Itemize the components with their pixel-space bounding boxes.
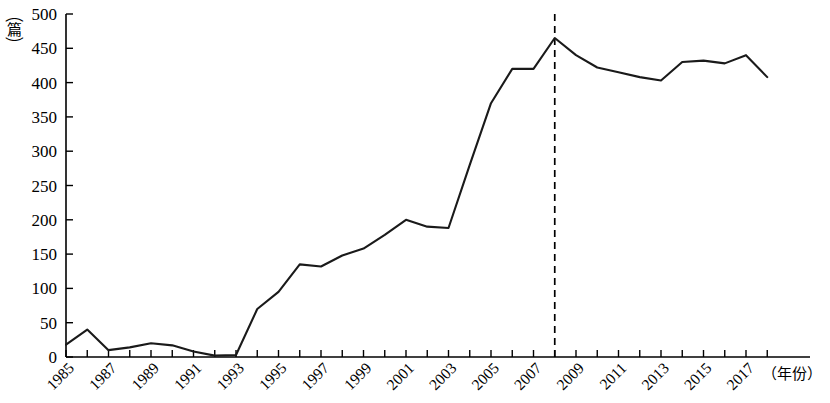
y-tick-label: 350 <box>32 108 58 127</box>
y-tick-label: 300 <box>32 142 58 161</box>
x-tick-label: 2015 <box>681 359 715 393</box>
x-tick-label: 2005 <box>468 359 502 393</box>
x-tick-label: 2003 <box>426 359 460 393</box>
y-tick-label: 150 <box>32 245 58 264</box>
y-tick-label: 500 <box>32 5 58 24</box>
y-tick-label: 400 <box>32 74 58 93</box>
line-chart-figure: ︵ 篇 ︶ （年份） 05010015020025030035040045050… <box>0 0 830 403</box>
x-tick-label: 1993 <box>213 359 247 393</box>
x-tick-label: 2017 <box>723 359 757 393</box>
y-tick-label: 100 <box>32 279 58 298</box>
y-tick-label: 0 <box>49 348 58 367</box>
x-tick-label: 2001 <box>383 359 417 393</box>
x-tick-label: 1991 <box>171 359 205 393</box>
chart-plot-area: 050100150200250300350400450500 198519871… <box>0 0 830 403</box>
y-tick-label: 200 <box>32 211 58 230</box>
y-tick-label: 50 <box>40 314 57 333</box>
x-tick-label: 2013 <box>638 359 672 393</box>
x-tick-label: 2007 <box>511 359 545 393</box>
x-tick-label: 2011 <box>596 359 630 393</box>
data-series-line <box>66 38 767 356</box>
x-tick-label: 1999 <box>341 359 375 393</box>
y-tick-label: 450 <box>32 39 58 58</box>
x-tick-label: 1987 <box>86 359 120 393</box>
x-tick-label: 1995 <box>256 359 290 393</box>
y-tick-label: 250 <box>32 177 58 196</box>
x-tick-label: 2009 <box>553 359 587 393</box>
x-tick-label: 1989 <box>128 359 162 393</box>
x-tick-label: 1997 <box>298 359 332 393</box>
